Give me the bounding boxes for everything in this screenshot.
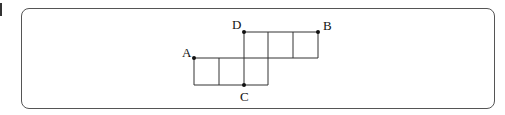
point-b-dot	[316, 30, 320, 34]
label-c: C	[240, 89, 249, 104]
point-a-dot	[192, 56, 196, 60]
label-d: D	[232, 17, 241, 32]
label-b: B	[323, 18, 332, 33]
point-d-dot	[242, 30, 246, 34]
grid-lines	[194, 32, 318, 85]
label-a: A	[182, 45, 192, 60]
square-net-diagram: A B C D	[0, 0, 505, 115]
point-c-dot	[242, 83, 246, 87]
